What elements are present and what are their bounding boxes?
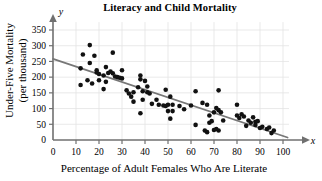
data-point xyxy=(205,130,210,135)
data-point xyxy=(78,66,83,71)
data-point xyxy=(129,94,134,99)
data-point xyxy=(255,119,260,124)
x-tick-label: 100 xyxy=(276,147,291,157)
data-point xyxy=(242,114,247,119)
data-point xyxy=(131,99,136,104)
data-point xyxy=(88,43,93,48)
x-tick-label: 0 xyxy=(51,147,56,157)
data-point xyxy=(138,77,143,82)
data-point xyxy=(267,125,272,130)
tick-labels: 0102030405060708090100501001502002503003… xyxy=(32,25,291,157)
data-point xyxy=(120,76,125,81)
data-point xyxy=(140,89,145,94)
data-point xyxy=(166,103,171,108)
data-points xyxy=(78,43,276,136)
y-tick-label: 300 xyxy=(32,41,47,51)
y-tick-label: 50 xyxy=(37,120,47,130)
data-point xyxy=(221,118,226,123)
y-tick-label: 100 xyxy=(32,104,47,114)
x-tick-label: 60 xyxy=(186,147,196,157)
x-tick-label: 50 xyxy=(163,147,173,157)
y-variable-label: y xyxy=(58,6,64,17)
data-point xyxy=(157,103,162,108)
x-tick-label: 40 xyxy=(140,147,150,157)
data-point xyxy=(212,110,217,115)
x-tick-label: 90 xyxy=(255,147,265,157)
data-point xyxy=(154,97,159,102)
data-point xyxy=(163,87,168,92)
data-point xyxy=(88,61,93,66)
x-tick-label: 30 xyxy=(117,147,127,157)
data-point xyxy=(207,113,212,118)
data-point xyxy=(81,52,86,57)
data-point xyxy=(111,50,116,55)
data-point xyxy=(92,53,97,58)
data-point xyxy=(168,94,173,99)
data-point xyxy=(251,115,256,120)
data-point xyxy=(200,101,205,106)
data-point xyxy=(193,123,198,128)
data-point xyxy=(168,116,173,121)
data-point xyxy=(216,128,221,133)
data-point xyxy=(143,79,148,84)
y-tick-label-origin: 0 xyxy=(41,135,46,145)
y-tick-label: 200 xyxy=(32,72,47,82)
x-variable-label: x xyxy=(310,135,316,146)
data-point xyxy=(101,87,106,92)
y-tick-label: 350 xyxy=(32,25,47,35)
x-axis-arrow-icon xyxy=(302,136,310,144)
data-point xyxy=(131,90,136,95)
data-point xyxy=(104,80,109,85)
data-point xyxy=(85,78,90,83)
data-point xyxy=(272,128,277,133)
data-point xyxy=(209,119,214,124)
x-tick-label: 20 xyxy=(94,147,104,157)
data-point xyxy=(244,124,249,129)
chart-figure: Literacy and Child Mortality Under-Five … xyxy=(0,0,322,181)
data-point xyxy=(189,103,194,108)
data-point xyxy=(104,65,109,70)
data-point xyxy=(205,103,210,108)
data-point xyxy=(140,97,145,102)
data-point xyxy=(147,91,152,96)
data-point xyxy=(90,81,95,86)
y-tick-label: 150 xyxy=(32,88,47,98)
data-point xyxy=(235,103,240,108)
data-point xyxy=(138,111,143,116)
data-point xyxy=(145,84,150,89)
data-point xyxy=(260,125,265,130)
data-point xyxy=(97,78,102,83)
data-point xyxy=(177,104,182,109)
data-point xyxy=(219,110,224,115)
data-point xyxy=(150,102,155,107)
data-point xyxy=(136,85,141,90)
x-tick-label: 10 xyxy=(71,147,81,157)
scatter-plot: 0102030405060708090100501001502002503003… xyxy=(0,0,322,181)
data-point xyxy=(249,120,254,125)
x-tick-label: 80 xyxy=(232,147,242,157)
y-axis-arrow-icon xyxy=(49,14,57,22)
data-point xyxy=(120,68,125,73)
data-point xyxy=(101,73,106,78)
data-point xyxy=(170,103,175,108)
x-tick-label: 70 xyxy=(209,147,219,157)
data-point xyxy=(78,83,83,88)
data-point xyxy=(170,109,175,114)
data-point xyxy=(182,107,187,112)
data-point xyxy=(193,89,198,94)
data-point xyxy=(216,88,221,93)
data-point xyxy=(97,72,102,77)
data-point xyxy=(166,109,171,114)
y-tick-label: 250 xyxy=(32,57,47,67)
